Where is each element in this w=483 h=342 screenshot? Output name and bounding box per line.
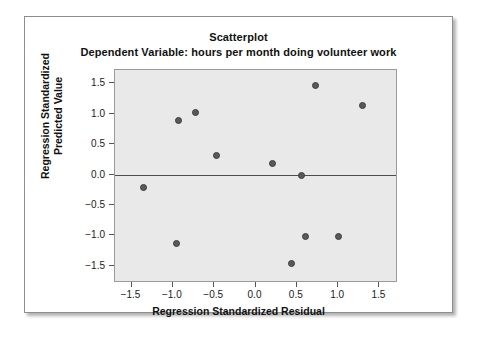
y-axis-tick-marks [109, 69, 114, 282]
zero-reference-line [115, 175, 396, 176]
y-tick-mark [109, 234, 114, 235]
scatterplot-figure-card: Scatterplot Dependent Variable: hours pe… [24, 16, 453, 313]
data-point [298, 172, 305, 179]
y-tick-label: −1.0 [85, 229, 105, 240]
y-tick-mark [109, 113, 114, 114]
x-tick-mark [131, 282, 132, 287]
y-tick-label: 1.5 [91, 77, 105, 88]
data-point [359, 102, 366, 109]
y-tick-label: −1.5 [85, 259, 105, 270]
y-tick-mark [109, 174, 114, 175]
x-tick-label: 0.0 [248, 289, 262, 300]
x-tick-label: 1.5 [372, 289, 386, 300]
x-tick-label: 1.0 [330, 289, 344, 300]
x-tick-label: −1.5 [121, 289, 141, 300]
y-tick-label: 0.0 [91, 168, 105, 179]
data-point [335, 233, 342, 240]
y-axis-title-line-1: Regression Standardized [39, 41, 52, 191]
data-point [140, 184, 147, 191]
x-axis-tick-marks [114, 282, 397, 287]
x-tick-label: 0.5 [289, 289, 303, 300]
x-tick-mark [172, 282, 173, 287]
x-tick-mark [255, 282, 256, 287]
data-point [269, 160, 276, 167]
data-point [213, 152, 220, 159]
y-tick-label: 0.5 [91, 138, 105, 149]
data-point [312, 82, 319, 89]
y-axis-title: Regression Standardized Predicted Value [39, 41, 65, 191]
plot-area [114, 69, 397, 282]
data-point [302, 233, 309, 240]
y-tick-label: −0.5 [85, 198, 105, 209]
x-tick-mark [337, 282, 338, 287]
y-axis-title-line-2: Predicted Value [52, 41, 65, 191]
y-axis-tick-labels: 1.51.00.50.0−0.5−1.0−1.5 [65, 69, 105, 282]
y-tick-mark [109, 204, 114, 205]
x-tick-label: −0.5 [203, 289, 223, 300]
x-tick-label: −1.0 [162, 289, 182, 300]
y-tick-mark [109, 265, 114, 266]
x-axis-title: Regression Standardized Residual [25, 305, 452, 317]
data-point [192, 109, 199, 116]
data-point [288, 260, 295, 267]
data-point [173, 240, 180, 247]
data-point [175, 117, 182, 124]
x-tick-mark [296, 282, 297, 287]
y-tick-mark [109, 82, 114, 83]
x-tick-mark [213, 282, 214, 287]
y-tick-mark [109, 143, 114, 144]
chart-title: Scatterplot [25, 31, 452, 43]
chart-subtitle: Dependent Variable: hours per month doin… [25, 46, 452, 58]
x-tick-mark [378, 282, 379, 287]
x-axis-tick-labels: −1.5−1.0−0.50.00.51.01.5 [114, 289, 397, 303]
y-tick-label: 1.0 [91, 107, 105, 118]
